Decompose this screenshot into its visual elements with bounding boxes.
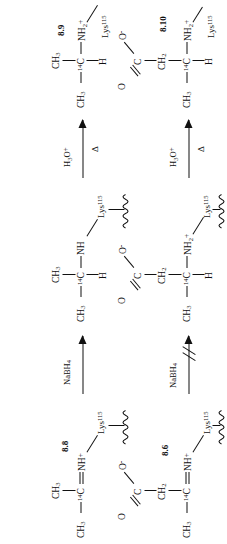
c86-bond-methyl-c14 <box>186 502 187 513</box>
amine86-methyl-left: CH3 <box>182 306 192 322</box>
amine86-carbon14: 14C <box>182 272 192 285</box>
amine86-oxide-oxygen: O- <box>117 245 128 254</box>
c810-bond-c14-h <box>192 60 204 61</box>
arrow-hydrolysis-top <box>78 120 87 178</box>
c810-bond-methyl-c14 <box>186 72 187 83</box>
c88-carbon14: 14C <box>76 488 86 501</box>
c89-carbon14: 14C <box>76 58 86 71</box>
arrow-nabh4-bottom <box>184 336 193 394</box>
c89-bond-c14-n <box>80 42 81 54</box>
amine88-hydrogen: H <box>98 272 108 279</box>
c810-bond-c14-ch2 <box>168 60 181 61</box>
c86-bond-carboxyl-oxide <box>123 472 133 484</box>
reagent-nabh4-bottom: NaBH4 <box>168 363 178 388</box>
c89-bond-c14-h <box>86 60 98 61</box>
c810-methyl-left: CH3 <box>182 92 192 108</box>
c86-carbon14: 14C <box>182 488 192 501</box>
c86-bond-n-lys <box>192 435 203 452</box>
c810-carbon14: 14C <box>182 58 192 71</box>
c89-methyl-top: CH3 <box>51 53 61 69</box>
amine86-bond-c14-n <box>186 256 187 268</box>
c86-carboxyl-carbon: C <box>133 489 143 495</box>
arrow-nabh4-top <box>78 336 87 394</box>
c88-bond-methyl-c14 <box>80 502 81 513</box>
amine86-bond-methyl-c14 <box>186 286 187 297</box>
c86-bond-c14-ch2 <box>168 490 181 491</box>
c89-bond-c14-methyl-top <box>62 60 75 61</box>
amine86-bond-n-lys <box>192 217 203 234</box>
amine86-ch2: CH2 <box>157 268 167 284</box>
amine88-carbon14: 14C <box>76 272 86 285</box>
amine86-carboxyl-carbon: C <box>133 273 143 279</box>
c86-bond-ch2-carboxyl <box>144 490 156 491</box>
amine86-carbonyl-double-bond <box>129 279 140 291</box>
c810-amine-nitrogen: NH2+ <box>182 20 194 41</box>
c89-lys-label: Lys115 <box>100 15 109 38</box>
c86-carbonyl-oxygen: O <box>117 513 127 520</box>
reaction-scheme-canvas: CH3 14C CH3 NH+ Lys115 8.8 NaBH4 CH3 14C… <box>0 0 227 544</box>
compound-label-8-6: 8.6 <box>160 445 169 456</box>
c89-amine-nitrogen: NH2+ <box>76 20 88 41</box>
c89-bond-methyl-c14 <box>80 72 81 83</box>
c86-oxide-oxygen: O- <box>117 461 128 470</box>
c810-bond-n-lys <box>192 7 202 23</box>
c88-bond-n-lys <box>86 435 97 452</box>
c88-methyl-left: CH3 <box>76 522 86 538</box>
amine86-carbonyl-oxygen: O <box>117 297 127 304</box>
c86-ch2: CH2 <box>157 484 167 500</box>
c86-imine-nitrogen: NH+ <box>182 453 193 471</box>
amine86-amine-nitrogen: NH2+ <box>182 234 194 255</box>
amine88-bond-c14-methyl-top <box>62 274 75 275</box>
condition-delta-top: Δ <box>90 146 99 152</box>
c89-methyl-left: CH3 <box>76 92 86 108</box>
amine86-bond-carboxyl-oxide <box>123 256 133 268</box>
c88-imine-double-bond <box>79 472 83 484</box>
c810-oxide-oxygen: O- <box>117 31 128 40</box>
compound-label-8-10: 8.10 <box>158 16 167 32</box>
c86-carbonyl-double-bond <box>129 495 140 507</box>
amine88-bond-c14-h <box>86 274 98 275</box>
amine88-methyl-left: CH3 <box>76 306 86 322</box>
amine86-protein-backbone-squiggle <box>216 190 224 228</box>
amine86-bond-ch2-carboxyl <box>144 274 156 275</box>
c88-protein-backbone-squiggle <box>120 406 128 444</box>
c810-ch2: CH2 <box>157 54 167 70</box>
amine88-protein-backbone-squiggle <box>120 190 128 228</box>
amine86-hydrogen: H <box>204 272 214 279</box>
c88-methyl-top: CH3 <box>51 483 61 499</box>
amine86-lys-label: Lys115 <box>202 195 211 218</box>
amine86-bond-c14-h <box>192 274 204 275</box>
c86-lys-label: Lys115 <box>202 411 211 434</box>
amine86-bond-c14-ch2 <box>168 274 181 275</box>
c810-carbonyl-double-bond <box>129 65 140 77</box>
amine88-bond-n-lys <box>86 219 97 236</box>
c88-lys-label: Lys115 <box>96 411 105 434</box>
reagent-h3o-bottom: H3O+ <box>167 147 179 167</box>
c810-carboxyl-carbon: C <box>133 59 143 65</box>
condition-delta-bottom: Δ <box>196 146 205 152</box>
c810-bond-ch2-carboxyl <box>144 60 156 61</box>
c86-methyl-left: CH3 <box>182 522 192 538</box>
c88-bond-c14-methyl-top <box>62 490 75 491</box>
amine88-amine-nitrogen: NH <box>76 241 86 255</box>
c810-bond-c14-n <box>186 42 187 54</box>
c89-hydrogen: H <box>98 58 108 65</box>
amine88-lys-label: Lys115 <box>96 195 105 218</box>
c86-imine-double-bond <box>185 472 189 484</box>
arrow-hydrolysis-bottom <box>184 120 193 178</box>
c810-bond-carboxyl-oxide <box>123 42 133 54</box>
c810-lys-label: Lys115 <box>206 15 215 38</box>
c89-bond-n-lys <box>86 5 97 22</box>
c810-hydrogen: H <box>204 58 214 65</box>
reagent-nabh4-top: NaBH4 <box>62 360 72 385</box>
reagent-h3o-top: H3O+ <box>61 147 73 167</box>
amine88-methyl-top: CH3 <box>51 267 61 283</box>
amine88-bond-c14-n <box>80 256 81 268</box>
c88-imine-nitrogen: NH+ <box>76 453 87 471</box>
compound-label-8-8: 8.8 <box>60 441 69 452</box>
c810-carbonyl-oxygen: O <box>117 83 127 90</box>
amine88-bond-methyl-c14 <box>80 286 81 297</box>
c86-protein-backbone-squiggle <box>216 406 224 444</box>
compound-label-8-9: 8.9 <box>56 25 65 36</box>
